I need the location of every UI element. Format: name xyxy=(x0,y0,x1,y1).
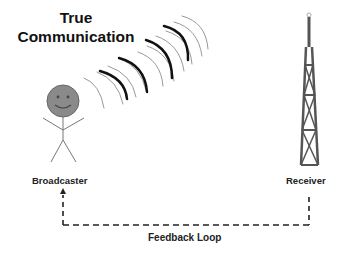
right-eye xyxy=(67,96,70,99)
wave-arc xyxy=(138,52,163,86)
receiver-label: Receiver xyxy=(286,175,326,186)
broadcaster-figure-icon xyxy=(43,85,84,162)
arrowhead-icon xyxy=(60,188,66,194)
smiley-face xyxy=(47,85,79,117)
wave-arc xyxy=(97,72,123,104)
right-leg xyxy=(63,140,76,162)
tower-beacon xyxy=(307,13,311,17)
radio-tower-icon xyxy=(301,13,318,165)
left-eye xyxy=(57,96,60,99)
right-arm xyxy=(63,118,84,130)
left-arm xyxy=(43,118,63,130)
wave-arc xyxy=(84,78,104,108)
left-leg xyxy=(51,140,63,162)
broadcaster-label: Broadcaster xyxy=(32,175,87,186)
feedback-loop-arrow xyxy=(60,188,309,225)
feedback-loop-label: Feedback Loop xyxy=(148,232,221,243)
radio-waves-icon xyxy=(84,16,208,108)
diagram-canvas xyxy=(0,0,342,258)
